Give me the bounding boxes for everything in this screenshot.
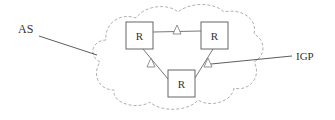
igp-callout: IGP	[211, 50, 314, 64]
router-label: R	[178, 78, 186, 90]
router-label: R	[211, 30, 219, 42]
router-r2: R	[201, 22, 228, 49]
igp-label: IGP	[296, 50, 314, 62]
router-label: R	[136, 30, 144, 42]
as-callout: AS	[18, 22, 97, 55]
network-diagram: R R R AS IGP	[0, 0, 335, 120]
triangle-icon	[173, 25, 181, 34]
router-r3: R	[168, 70, 195, 97]
triangle-icon	[204, 58, 212, 67]
router-r1: R	[126, 22, 153, 49]
link-r1-r3	[143, 49, 168, 79]
as-label: AS	[18, 22, 33, 36]
